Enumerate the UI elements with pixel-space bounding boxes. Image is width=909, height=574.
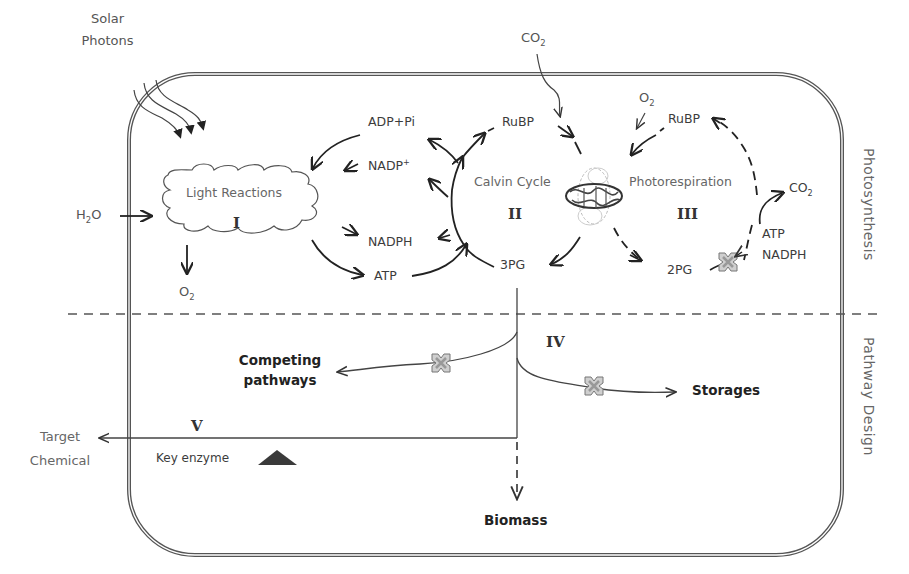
- photorespiration-label: Photorespiration: [629, 176, 732, 189]
- module-i-numeral: I: [233, 216, 240, 231]
- carbon-trunk: [100, 288, 675, 438]
- section-label-pathway-design: Pathway Design: [862, 337, 876, 456]
- key-enzyme-triangle-icon: [258, 450, 297, 465]
- 3pg-label: 3PG: [500, 259, 525, 272]
- module-v-numeral: V: [191, 419, 203, 434]
- solar-photons-label: SolarPhotons: [60, 8, 155, 52]
- photorespiration-nadph-label: NADPH: [762, 249, 806, 262]
- section-label-photosynthesis: Photosynthesis: [862, 148, 876, 261]
- competing-pathways-label: Competingpathways: [230, 350, 330, 390]
- calvin-cycle-label: Calvin Cycle: [474, 176, 551, 189]
- storages-label: Storages: [692, 384, 760, 398]
- photorespiration-atp-label: ATP: [762, 228, 785, 241]
- biomass-label: Biomass: [484, 514, 547, 528]
- module-ii-numeral: II: [508, 207, 522, 222]
- nadp-label: NADP+: [368, 158, 410, 173]
- co2-in-label: CO2: [521, 31, 546, 47]
- cofactor-exchange-arrows: [412, 134, 494, 276]
- module-iii-numeral: III: [677, 207, 698, 222]
- module-iv-numeral: IV: [546, 335, 565, 350]
- photorespiration-block-icon: [719, 253, 737, 271]
- diagram-canvas: [0, 0, 909, 574]
- nadph-label: NADPH: [368, 236, 412, 249]
- solar-photon-arrows: [134, 80, 203, 136]
- target-chemical-label: TargetChemical: [14, 425, 106, 473]
- rubp-to-rubisco-arrow: [558, 126, 572, 136]
- 2pg-label: 2PG: [667, 264, 692, 277]
- storage-block-icon: [585, 377, 603, 395]
- o2-out-label: O2: [179, 285, 195, 301]
- photorespiration-arrows: [614, 120, 757, 260]
- rubisco-structure-icon: [566, 168, 622, 225]
- h2o-label: H2O: [76, 208, 101, 224]
- light-cycle-arrows: [312, 135, 362, 275]
- key-enzyme-label: Key enzyme: [156, 452, 229, 464]
- co2-in-arrow: [537, 54, 560, 116]
- rubisco-to-3pg-arrow: [552, 237, 580, 264]
- photorespiration-rubp-label: RuBP: [668, 113, 700, 126]
- adp-pi-label: ADP+Pi: [368, 116, 415, 129]
- calvin-rubp-label: RuBP: [502, 116, 534, 129]
- rubp-dash: [488, 128, 494, 131]
- photorespiration-o2-label: O2: [639, 91, 655, 107]
- co2-release-label: CO2: [789, 182, 813, 197]
- atp-label: ATP: [374, 270, 397, 283]
- light-reactions-label: Light Reactions: [186, 187, 282, 200]
